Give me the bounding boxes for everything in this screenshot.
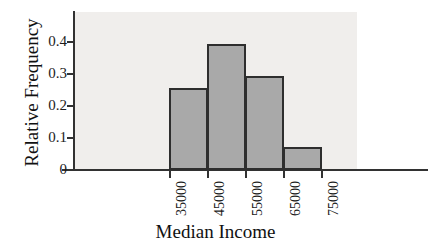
x-tick-label-55000: 55000 (251, 181, 265, 216)
x-axis-title: Median Income (74, 222, 357, 241)
histogram-bar (283, 147, 322, 170)
y-tick-mark (67, 169, 74, 171)
histogram-bar (169, 88, 208, 170)
y-axis-line (73, 11, 75, 171)
y-tick-mark (67, 41, 74, 43)
histogram-bar (207, 44, 246, 170)
histogram-bar (245, 76, 284, 170)
y-tick-mark (67, 137, 74, 139)
y-axis-title: Relative Frequency (22, 3, 41, 183)
x-tick-mark (169, 171, 171, 178)
x-tick-label-45000: 45000 (213, 181, 227, 216)
histogram-figure: Median Household Income 0 0.1 0.2 0.3 0.… (0, 0, 430, 250)
x-tick-mark (207, 171, 209, 178)
x-tick-mark (245, 171, 247, 178)
x-tick-label-35000: 35000 (175, 181, 189, 216)
chart-title: Median Household Income (0, 0, 430, 3)
x-tick-label-65000: 65000 (289, 181, 303, 216)
y-tick-mark (67, 105, 74, 107)
y-tick-mark (67, 73, 74, 75)
x-tick-mark (283, 171, 285, 178)
x-tick-mark (321, 171, 323, 178)
x-tick-label-75000: 75000 (327, 181, 341, 216)
